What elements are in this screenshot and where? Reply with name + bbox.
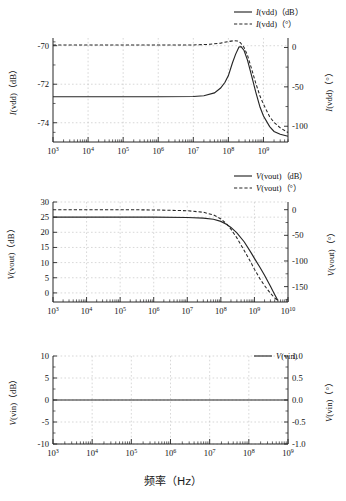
svg-text:20: 20: [40, 227, 49, 237]
svg-text:105: 105: [126, 448, 138, 458]
svg-text:106: 106: [148, 306, 160, 316]
svg-text:0.0: 0.0: [292, 395, 303, 405]
svg-text:I(vdd)（dB）: I(vdd)（dB）: [8, 65, 18, 116]
svg-text:107: 107: [188, 146, 200, 156]
svg-text:V(vout)（°）: V(vout)（°）: [326, 228, 336, 276]
x-axis-title: 频率（Hz）: [0, 472, 346, 488]
svg-text:-70: -70: [38, 41, 49, 51]
vin-plot: 1050-5-101.00.50.0-0.5-1.010310410510610…: [0, 332, 346, 472]
panel-vin: 1050-5-101.00.50.0-0.5-1.010310410510610…: [0, 332, 346, 472]
svg-text:-5: -5: [42, 417, 49, 427]
svg-text:104: 104: [81, 306, 93, 316]
svg-text:5: 5: [45, 273, 49, 283]
svg-text:103: 103: [47, 146, 59, 156]
svg-text:103: 103: [47, 306, 59, 316]
svg-text:V(vout)（dB）: V(vout)（dB）: [6, 224, 16, 279]
panel-ivdd: -70-72-740-50-100103104105106107108109I(…: [0, 0, 346, 166]
svg-text:108: 108: [215, 306, 227, 316]
svg-text:0: 0: [45, 395, 49, 405]
legend-label: V(vout)（dB）: [256, 172, 307, 181]
svg-text:109: 109: [282, 448, 294, 458]
svg-text:0: 0: [292, 205, 296, 215]
svg-text:-100: -100: [292, 256, 308, 266]
ivdd-plot: -70-72-740-50-100103104105106107108109I(…: [0, 0, 346, 166]
svg-text:0.5: 0.5: [292, 373, 303, 383]
svg-text:5: 5: [45, 373, 49, 383]
svg-text:-50: -50: [292, 230, 303, 240]
svg-text:10: 10: [40, 258, 49, 268]
vout-plot: 3025201510500-50-100-1501031041051061071…: [0, 166, 346, 332]
svg-text:107: 107: [181, 306, 193, 316]
svg-text:104: 104: [82, 146, 94, 156]
svg-text:108: 108: [223, 146, 235, 156]
svg-text:109: 109: [249, 306, 261, 316]
legend-label: I(vdd)（dB）: [255, 8, 303, 17]
svg-text:107: 107: [204, 448, 216, 458]
legend-label: V(vin): [276, 352, 298, 361]
svg-text:108: 108: [243, 448, 255, 458]
legend-label: V(vout)（°）: [256, 184, 301, 193]
svg-text:V(vin)（°）: V(vin)（°）: [324, 378, 334, 422]
legend-label: I(vdd)（°）: [255, 20, 296, 29]
svg-text:103: 103: [47, 448, 59, 458]
svg-text:I(vdd)（°）: I(vdd)（°）: [324, 68, 334, 113]
svg-text:30: 30: [40, 197, 49, 207]
svg-text:106: 106: [165, 448, 177, 458]
bode-plot-figure: -70-72-740-50-100103104105106107108109I(…: [0, 0, 346, 501]
svg-text:109: 109: [258, 146, 270, 156]
svg-text:-100: -100: [292, 121, 308, 131]
svg-text:104: 104: [86, 448, 98, 458]
svg-text:-0.5: -0.5: [292, 417, 306, 427]
svg-text:-72: -72: [38, 79, 49, 89]
svg-text:105: 105: [114, 306, 126, 316]
svg-text:15: 15: [40, 242, 49, 252]
svg-text:0: 0: [45, 288, 49, 298]
svg-text:V(vin)（dB）: V(vin)（dB）: [8, 375, 18, 426]
svg-text:1010: 1010: [281, 306, 296, 316]
svg-text:-1.0: -1.0: [292, 439, 306, 449]
panel-vout: 3025201510500-50-100-1501031041051061071…: [0, 166, 346, 332]
svg-text:-74: -74: [38, 118, 50, 128]
svg-text:106: 106: [152, 146, 164, 156]
svg-text:10: 10: [40, 351, 49, 361]
svg-text:-50: -50: [292, 82, 303, 92]
svg-text:0: 0: [292, 42, 296, 52]
svg-text:25: 25: [40, 212, 49, 222]
svg-text:-150: -150: [292, 282, 308, 292]
svg-text:105: 105: [117, 146, 129, 156]
